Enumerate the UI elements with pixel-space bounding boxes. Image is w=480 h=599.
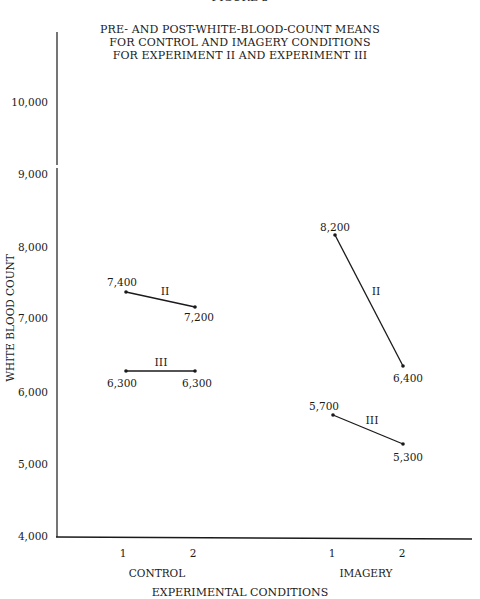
y-tick-4000: 4,000 [0,530,48,542]
point-label: 7,400 [107,276,137,288]
x-group-control: CONTROL [129,567,185,579]
series-label-control-ii: II [161,285,170,298]
series-label-imagery-ii: II [372,285,381,298]
series-label-imagery-iii: III [365,414,378,427]
x-axis [56,537,472,539]
y-tick-9000: 9,000 [0,168,48,180]
point-label: 8,200 [320,221,350,233]
point-label: 5,700 [309,400,339,412]
x-tick-control-2: 2 [190,547,197,559]
x-tick-imagery-1: 1 [329,547,336,559]
series-label-control-iii: III [154,356,167,369]
point-label: 5,300 [393,451,423,463]
x-group-imagery: IMAGERY [339,567,392,579]
point-label: 6,400 [393,372,423,384]
y-tick-10000: 10,000 [0,96,48,108]
point-label: 6,300 [182,377,212,389]
point-label: 7,200 [184,311,214,323]
y-axis-label: WHITE BLOOD COUNT [4,248,16,388]
point-label: 6,300 [107,377,137,389]
x-tick-imagery-2: 2 [399,547,406,559]
x-axis-title: EXPERIMENTAL CONDITIONS [0,586,480,599]
x-tick-control-1: 1 [120,547,127,559]
y-tick-5000: 5,000 [0,458,48,470]
